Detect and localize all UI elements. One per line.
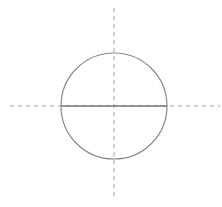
- diagram-canvas: [0, 0, 222, 207]
- circle-diagram: [0, 0, 222, 207]
